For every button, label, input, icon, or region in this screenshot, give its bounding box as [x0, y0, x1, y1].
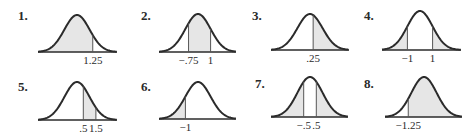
z-value-label: −1.25 [396, 119, 421, 131]
panel-6: 6. −1 [119, 69, 238, 138]
panel-1: 1. 1.25 [0, 0, 119, 69]
bell-curve [271, 14, 348, 50]
panel-5: 5. .51.5 [0, 69, 119, 138]
shaded-region [316, 82, 348, 117]
panel-4: 4. −11 [357, 0, 476, 69]
bell-curve [271, 77, 348, 117]
bell-curve [159, 82, 236, 119]
z-value-label: .25 [306, 52, 320, 64]
z-value-label: 1 [430, 52, 436, 64]
bell-curve [38, 82, 117, 120]
z-value-label: .5 [79, 122, 87, 134]
panel-7: 7. −.5.5 [238, 69, 357, 138]
normal-curve-icon [119, 69, 238, 138]
normal-curve-icon [357, 0, 476, 69]
normal-curve-icon [238, 0, 357, 69]
z-value-label: −.5 [296, 119, 310, 131]
z-value-label: 1.5 [89, 122, 103, 134]
panel-3: 3. .25 [238, 0, 357, 69]
panel-2: 2. −.751 [119, 0, 238, 69]
shaded-region [271, 82, 304, 117]
z-value-label: −.75 [179, 54, 199, 66]
z-value-label: 1 [208, 54, 214, 66]
z-value-label: −1 [402, 52, 414, 64]
panel-8: 8. −1.25 [357, 69, 476, 138]
shaded-region [382, 26, 407, 50]
bell-curve [382, 11, 461, 50]
z-value-label: .5 [312, 119, 320, 131]
z-value-label: −1 [180, 121, 192, 133]
z-value-label: 1.25 [83, 54, 102, 66]
